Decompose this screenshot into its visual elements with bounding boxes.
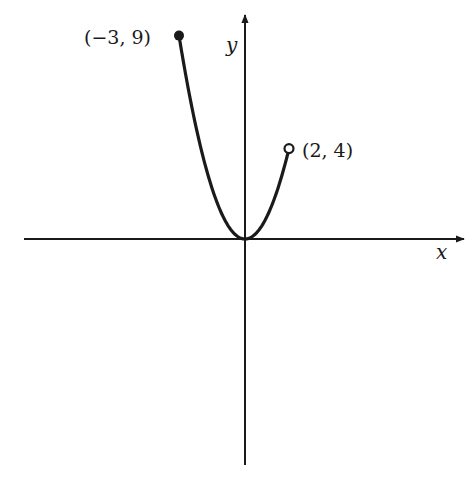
function-graph: (−3, 9) (2, 4) y x [0, 0, 473, 479]
right-endpoint-label: (2, 4) [302, 139, 353, 161]
closed-endpoint-marker [174, 31, 184, 41]
left-endpoint-label: (−3, 9) [84, 26, 151, 48]
open-endpoint-marker [285, 144, 294, 153]
x-axis-label: x [436, 240, 447, 264]
parabola-curve [179, 36, 289, 239]
y-axis-label: y [225, 33, 238, 57]
